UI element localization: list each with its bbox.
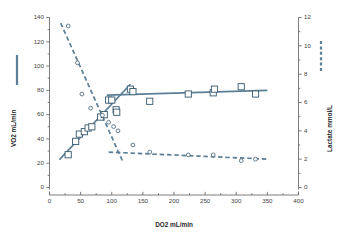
data-point-lactate: [254, 157, 258, 161]
data-point-vo2: [185, 91, 191, 97]
x-axis-tick-label: 400: [293, 198, 303, 204]
data-point-lactate: [80, 92, 84, 96]
y-axis-tick-label: 140: [34, 14, 44, 20]
x-axis-title: DO2 mL/min: [155, 222, 193, 228]
x-axis-tick-label: 50: [77, 198, 84, 204]
data-point-vo2: [238, 84, 244, 90]
y-axis-tick-label: 0: [41, 184, 44, 190]
x-axis-tick-label: 200: [169, 198, 179, 204]
data-point-lactate: [89, 106, 93, 110]
data-point-lactate: [107, 120, 111, 124]
y-axis-tick-label: 60: [37, 111, 44, 117]
data-point-lactate: [239, 159, 243, 163]
data-point-vo2: [147, 98, 153, 104]
data-point-vo2: [252, 91, 258, 97]
y-axis-tick-label: 80: [37, 87, 44, 93]
x-axis-tick-label: 100: [107, 198, 117, 204]
x-axis-tick-label: 0: [48, 198, 51, 204]
data-point-vo2: [211, 86, 217, 92]
y2-axis-title: Lactate mmol/L: [327, 105, 333, 152]
x-axis-tick-label: 350: [262, 198, 272, 204]
chart-figure: 0204060801001201400246810120501001502002…: [0, 0, 340, 243]
series-lactate-fit-line-1: [61, 23, 123, 162]
data-point-vo2: [109, 97, 115, 103]
x-axis-tick-label: 250: [200, 198, 210, 204]
y2-axis-tick-label: 10: [304, 43, 311, 49]
y-axis-title: VO2 mL/min: [11, 110, 17, 147]
data-point-lactate: [112, 125, 116, 129]
x-axis-tick-label: 300: [231, 198, 241, 204]
chart-plot-area: [0, 0, 340, 243]
data-point-vo2: [114, 109, 120, 115]
y2-axis-tick-label: 2: [304, 156, 307, 162]
data-point-lactate: [76, 61, 80, 65]
x-axis-tick-label: 150: [138, 198, 148, 204]
y-axis-tick-label: 100: [34, 63, 44, 69]
y-axis-tick-label: 20: [37, 160, 44, 166]
y2-axis-tick-label: 0: [304, 184, 307, 190]
y2-axis-tick-label: 8: [304, 71, 307, 77]
y2-axis-tick-label: 6: [304, 99, 307, 105]
data-point-vo2: [89, 124, 95, 130]
data-point-lactate: [131, 143, 135, 147]
y2-axis-tick-label: 12: [304, 14, 311, 20]
y2-axis-tick-label: 4: [304, 128, 307, 134]
data-point-lactate: [101, 113, 105, 117]
data-point-lactate: [211, 153, 215, 157]
data-point-lactate: [148, 150, 152, 154]
data-point-lactate: [66, 24, 70, 28]
data-point-lactate: [116, 129, 120, 133]
data-point-lactate: [186, 153, 190, 157]
data-point-vo2: [73, 138, 79, 144]
data-point-vo2: [130, 88, 136, 94]
data-point-vo2: [65, 152, 71, 158]
y-axis-tick-label: 40: [37, 136, 44, 142]
y-axis-tick-label: 120: [34, 39, 44, 45]
